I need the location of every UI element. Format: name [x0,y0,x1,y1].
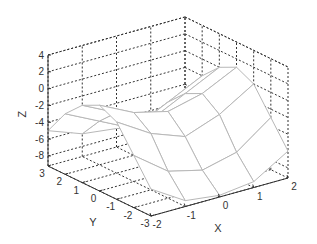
y-tick-label: 2 [56,176,62,187]
z-tick-label: -8 [35,150,44,161]
x-tick-label: 0 [223,200,229,211]
y-tick-label: 3 [39,168,45,179]
plot-canvas: -8-6-4-2024-3-2-10123-2-1012ZYX [0,0,317,244]
z-tick-label: -4 [35,117,44,128]
y-tick [82,182,85,183]
x-tick-label: 2 [291,181,297,192]
y-tick [65,173,68,174]
x-tick-label: -1 [187,210,196,221]
x-tick-label: 1 [257,191,263,202]
y-tick [117,198,120,199]
x-axis-title: X [214,222,222,234]
y-tick-label: -2 [123,210,132,221]
y-tick-label: 0 [91,193,97,204]
y-tick-label: -1 [106,201,115,212]
z-axis-title: Z [16,110,28,117]
x-tick-label: -2 [153,219,162,230]
y-tick-label: 1 [74,185,80,196]
y-tick [134,207,137,208]
z-tick-label: 0 [38,83,44,94]
z-tick-label: 2 [38,66,44,77]
surface-plot: -8-6-4-2024-3-2-10123-2-1012ZYX Z X Y [0,0,317,244]
z-tick-label: 4 [38,50,44,61]
z-tick-label: -6 [35,134,44,145]
z-tick-label: -2 [35,100,44,111]
y-tick-label: -3 [141,218,150,229]
y-tick [100,190,103,191]
y-axis-title: Y [89,216,97,228]
y-tick [151,215,154,216]
